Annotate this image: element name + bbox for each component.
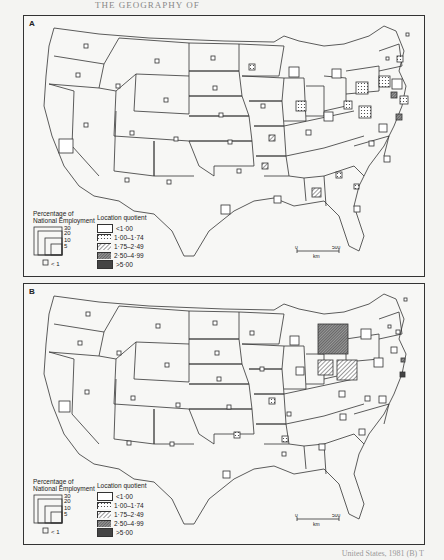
lq-class-3: 1·75–2·49 xyxy=(97,242,144,250)
lq-class-5: >5·00 xyxy=(97,260,133,268)
map-panel-a: A xyxy=(23,15,425,277)
scale-bar: 0 500 km xyxy=(294,514,344,529)
svg-text:5: 5 xyxy=(64,511,68,517)
scale-bar: 0 500 km xyxy=(294,246,344,261)
lq-legend-title: Location quotient xyxy=(97,482,147,489)
lq-class-1: <1·00 xyxy=(97,492,133,500)
lq-class-1: <1·00 xyxy=(97,224,133,232)
lq-class-4: 2·50–4·99 xyxy=(97,519,144,527)
svg-text:20: 20 xyxy=(64,498,71,504)
legend: Percentage of National Employment 30 20 … xyxy=(29,210,209,272)
svg-text:20: 20 xyxy=(64,230,71,236)
lq-class-2: 1·00–1·74 xyxy=(97,233,144,241)
map-panel-b: B xyxy=(23,283,425,545)
svg-text:km: km xyxy=(313,521,320,527)
svg-text:500: 500 xyxy=(332,246,341,250)
legend: Percentage of National Employment 30 20 … xyxy=(29,478,209,540)
svg-text:5: 5 xyxy=(64,243,68,249)
svg-text:< 1: < 1 xyxy=(51,261,60,267)
page-header: THE GEOGRAPHY OF xyxy=(95,0,200,10)
svg-text:0: 0 xyxy=(295,246,298,250)
lq-class-3: 1·75–2·49 xyxy=(97,510,144,518)
svg-text:500: 500 xyxy=(332,514,341,518)
lq-class-2: 1·00–1·74 xyxy=(97,501,144,509)
lq-class-5: >5·00 xyxy=(97,528,133,536)
svg-text:km: km xyxy=(313,253,320,259)
size-legend-squares: 30 20 10 5 < 1 xyxy=(33,494,93,536)
lq-legend-title: Location quotient xyxy=(97,214,147,221)
figure-caption: United States, 1981 (B) T xyxy=(342,549,424,558)
size-legend-title: Percentage of National Employment xyxy=(33,478,95,492)
lq-class-4: 2·50–4·99 xyxy=(97,251,144,259)
size-legend-title: Percentage of National Employment xyxy=(33,210,95,224)
size-legend-squares: 30 20 10 5 < 1 xyxy=(33,226,93,268)
svg-text:< 1: < 1 xyxy=(51,529,60,535)
svg-text:0: 0 xyxy=(295,514,298,518)
